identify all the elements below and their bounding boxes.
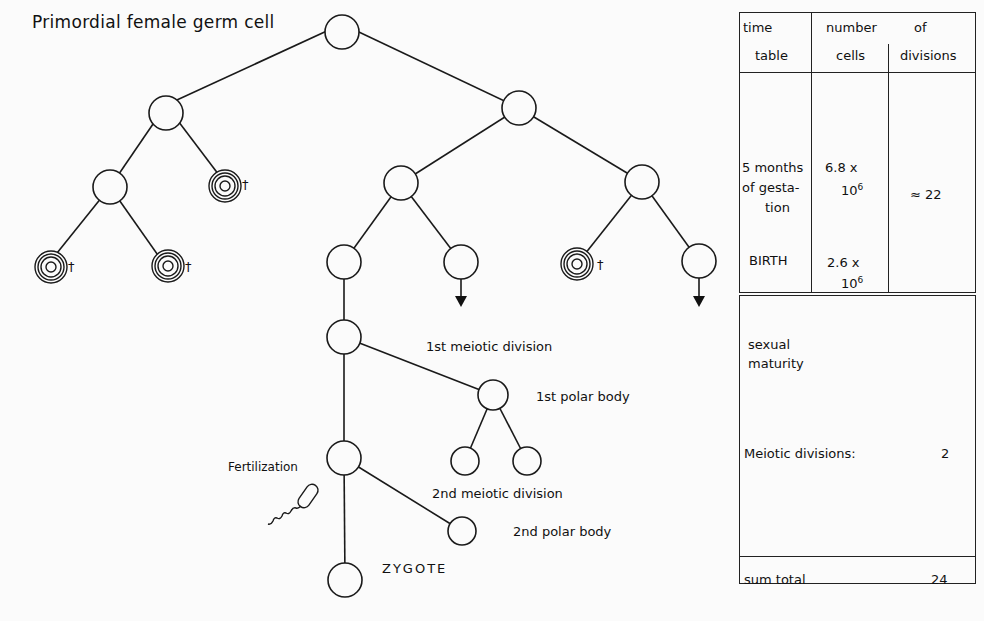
dagger-mark: † [185, 259, 192, 274]
polar-body-child [451, 447, 479, 475]
row-gestation-divisions: ≈ 22 [910, 186, 942, 203]
label-second-polar-body: 2nd polar body [513, 524, 611, 539]
dagger-mark: † [597, 257, 604, 272]
header-number: number [826, 19, 877, 36]
first-polar-body [478, 380, 508, 410]
label-fertilization: Fertilization [228, 460, 298, 474]
sperm-icon [268, 482, 320, 524]
row-birth-cells: 2.6 x [827, 254, 860, 271]
polar-body-child [513, 447, 541, 475]
dagger-mark: † [68, 259, 75, 274]
arrow-down-icon [455, 296, 467, 307]
row-gestation-time-3: tion [765, 199, 790, 216]
cell-l3 [444, 245, 478, 279]
oocyte-fertilization [327, 441, 361, 475]
cell-l3 [682, 244, 716, 278]
arrow-down-icon [693, 296, 705, 307]
cell-root [325, 15, 359, 49]
cell-l2 [625, 165, 659, 199]
second-polar-body [448, 517, 476, 545]
diagram-title: Primordial female germ cell [32, 12, 275, 32]
label-first-meiotic-division: 1st meiotic division [426, 339, 552, 354]
dead-cell-icon [152, 250, 184, 282]
header-cells: cells [836, 47, 865, 64]
cell-l3 [327, 245, 361, 279]
row-gestation-time-2: of gesta- [742, 179, 799, 196]
header-divisions: divisions [900, 47, 957, 64]
cell-l2 [93, 170, 127, 204]
header-of: of [914, 19, 927, 36]
row-gestation-time-1: 5 months [742, 159, 803, 176]
header-table: table [755, 47, 788, 64]
label-first-polar-body: 1st polar body [536, 389, 630, 404]
cell-l1-right [502, 91, 536, 125]
cell-l1-left [149, 96, 183, 130]
dagger-mark: † [242, 177, 249, 192]
header-time: time [743, 19, 772, 36]
oocyte-meiosis1 [327, 320, 361, 354]
maturity-line2: maturity [748, 355, 804, 372]
meiotic-divisions-label: Meiotic divisions: [744, 445, 856, 462]
maturity-line1: sexual [748, 336, 790, 353]
row-birth-cells-exp: 106 [841, 272, 863, 292]
row-gestation-cells: 6.8 x [825, 159, 858, 176]
dead-cell-icon [209, 170, 241, 202]
row-birth-time: BIRTH [749, 252, 788, 269]
sum-total-label: sum total [744, 571, 806, 588]
germ-cell-lineage-tree [0, 0, 730, 621]
row-gestation-cells-exp: 106 [841, 179, 863, 199]
zygote-cell [328, 563, 362, 597]
meiotic-divisions-value: 2 [941, 445, 949, 462]
cell-l2 [384, 166, 418, 200]
sum-total-value: 24 [931, 571, 948, 588]
dead-cell-icon [35, 251, 67, 283]
label-zygote: ZYGOTE [382, 561, 447, 576]
dead-cell-icon [561, 248, 593, 280]
label-second-meiotic-division: 2nd meiotic division [432, 486, 563, 501]
